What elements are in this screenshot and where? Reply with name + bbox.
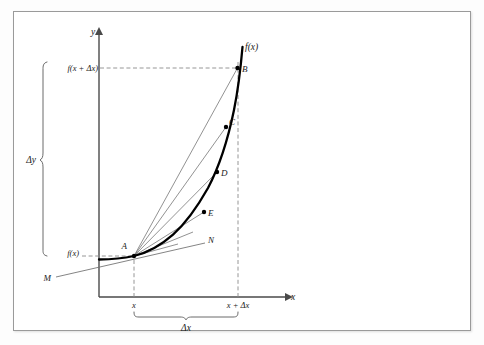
point-B-label: B	[242, 64, 248, 74]
secant-A-to-B	[134, 68, 238, 256]
brace-delta-x-shape	[134, 312, 238, 320]
calculus-diagram: y x f(x)	[0, 0, 484, 345]
tick-label-fx: f(x)	[67, 248, 79, 258]
function-curve-group: f(x)	[99, 42, 258, 260]
point-C-label: C	[229, 117, 236, 127]
brace-delta-y-shape	[40, 62, 47, 256]
function-curve	[99, 47, 243, 260]
x-axis-label: x	[290, 292, 296, 302]
point-B-dot	[235, 66, 239, 70]
point-E-dot	[202, 210, 206, 214]
point-D-label: D	[220, 168, 228, 178]
point-C-dot	[224, 125, 228, 129]
y-axis-label: y	[90, 27, 96, 37]
point-D-dot	[215, 170, 219, 174]
tick-label-x-plus-dx: x + Δx	[226, 300, 250, 310]
tangent-end-label-N: N	[207, 235, 215, 245]
brace-delta-x-label: Δx	[180, 323, 192, 333]
figure-root: y x f(x)	[0, 0, 484, 345]
point-A-label: A	[121, 241, 128, 251]
curve-label: f(x)	[245, 42, 258, 53]
secant-lines-group	[134, 68, 238, 256]
tangent-labels-group: M N	[43, 235, 216, 283]
brace-delta-x-group: Δx	[134, 312, 238, 333]
tick-label-x: x	[131, 300, 136, 310]
secant-A-to-E	[134, 212, 204, 256]
marked-points-group: A B C D E	[121, 64, 249, 258]
brace-delta-y-group: Δy	[25, 62, 47, 256]
brace-delta-y-label: Δy	[25, 155, 37, 165]
point-A-dot	[132, 254, 136, 258]
point-E-label: E	[207, 208, 214, 218]
tick-label-fx-plus-dx: f(x + Δx)	[67, 63, 98, 73]
tick-labels-group: x x + Δx f(x) f(x + Δx)	[67, 63, 249, 310]
dashed-guides-group	[82, 62, 238, 297]
tangent-start-label-M: M	[43, 273, 52, 283]
